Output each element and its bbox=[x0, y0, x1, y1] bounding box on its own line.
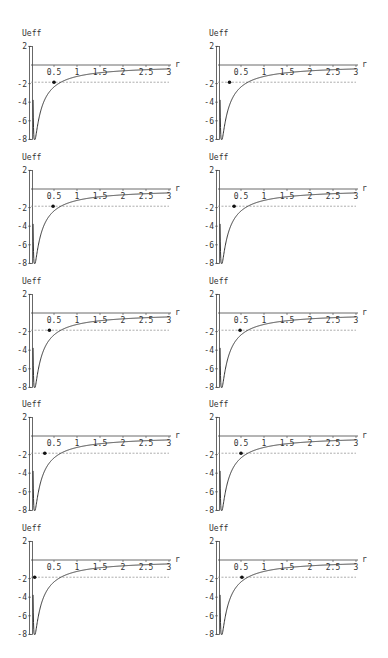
y-axis bbox=[30, 417, 33, 510]
x-axis-label: r bbox=[175, 555, 180, 564]
y-axis bbox=[30, 46, 33, 139]
y-tick-label: -2 bbox=[17, 80, 27, 89]
y-axis-label: Ueff bbox=[209, 400, 228, 409]
y-tick-label: -2 bbox=[204, 80, 214, 89]
y-tick-label: -8 bbox=[204, 383, 214, 392]
y-axis bbox=[30, 541, 33, 634]
x-tick-label: 0.5 bbox=[234, 68, 249, 77]
x-tick-label: 0.5 bbox=[234, 192, 249, 201]
x-tick-label: 2 bbox=[121, 439, 126, 448]
x-axis-label: r bbox=[175, 431, 180, 440]
effective-potential-curve bbox=[33, 69, 169, 139]
y-tick-label: -6 bbox=[17, 117, 27, 126]
effective-potential-curve bbox=[220, 317, 356, 387]
x-axis-label: r bbox=[175, 308, 180, 317]
y-tick-label: 2 bbox=[22, 42, 27, 51]
plot-panel-row3-left: Ueff2-2-4-6-8r0.511.522.53 bbox=[17, 277, 180, 392]
effective-potential-curve bbox=[220, 193, 356, 263]
y-tick-label: -2 bbox=[204, 328, 214, 337]
x-tick-label: 2 bbox=[121, 192, 126, 201]
y-axis-label: Ueff bbox=[209, 153, 228, 162]
y-tick-label: -6 bbox=[204, 117, 214, 126]
effective-potential-curve bbox=[33, 440, 169, 510]
y-tick-label: -6 bbox=[204, 612, 214, 621]
y-axis-label: Ueff bbox=[22, 29, 41, 38]
y-axis-label: Ueff bbox=[209, 524, 228, 533]
y-tick-label: -8 bbox=[17, 630, 27, 639]
y-axis bbox=[217, 46, 220, 139]
y-axis bbox=[217, 294, 220, 387]
plot-panel-row2-right: Ueff2-2-4-6-8r0.511.522.53 bbox=[204, 153, 367, 268]
x-tick-label: 0.5 bbox=[234, 439, 249, 448]
x-tick-label: 2 bbox=[308, 192, 313, 201]
y-axis-label: Ueff bbox=[22, 153, 41, 162]
x-axis-label: r bbox=[362, 431, 367, 440]
x-tick-label: 2 bbox=[308, 439, 313, 448]
y-tick-label: -2 bbox=[17, 328, 27, 337]
y-tick-label: -6 bbox=[204, 241, 214, 250]
y-tick-label: -6 bbox=[17, 612, 27, 621]
y-axis-label: Ueff bbox=[209, 29, 228, 38]
y-tick-label: -4 bbox=[204, 469, 214, 478]
y-axis bbox=[217, 170, 220, 263]
plot-panel-row2-left: Ueff2-2-4-6-8r0.511.522.53 bbox=[17, 153, 180, 268]
x-tick-label: 0.5 bbox=[47, 316, 62, 325]
y-tick-label: -4 bbox=[204, 98, 214, 107]
x-axis-label: r bbox=[175, 184, 180, 193]
particle-position-dot bbox=[52, 80, 56, 84]
y-axis-label: Ueff bbox=[209, 277, 228, 286]
effective-potential-curve bbox=[33, 193, 169, 263]
potential-plots-canvas: Ueff2-2-4-6-8r0.511.522.53Ueff2-2-4-6-8r… bbox=[0, 0, 388, 658]
particle-position-dot bbox=[228, 80, 232, 84]
y-tick-label: -2 bbox=[204, 451, 214, 460]
x-tick-label: 2 bbox=[308, 316, 313, 325]
particle-position-dot bbox=[43, 451, 47, 455]
plot-panel-row4-left: Ueff2-2-4-6-8r0.511.522.53 bbox=[17, 400, 180, 515]
y-axis-label: Ueff bbox=[22, 524, 41, 533]
particle-position-dot bbox=[33, 575, 37, 579]
y-tick-label: -4 bbox=[204, 593, 214, 602]
y-tick-label: 2 bbox=[22, 537, 27, 546]
y-axis bbox=[217, 417, 220, 510]
x-tick-label: 0.5 bbox=[234, 316, 249, 325]
plot-grid: Ueff2-2-4-6-8r0.511.522.53Ueff2-2-4-6-8r… bbox=[0, 0, 388, 658]
x-tick-label: 0.5 bbox=[47, 68, 62, 77]
y-tick-label: -4 bbox=[204, 346, 214, 355]
plot-panel-row5-right: Ueff2-2-4-6-8r0.511.522.53 bbox=[204, 524, 367, 639]
x-axis-label: r bbox=[362, 555, 367, 564]
y-tick-label: -8 bbox=[17, 135, 27, 144]
y-tick-label: -2 bbox=[17, 575, 27, 584]
x-tick-label: 0.5 bbox=[234, 563, 249, 572]
y-tick-label: -8 bbox=[17, 506, 27, 515]
y-tick-label: -8 bbox=[204, 259, 214, 268]
x-tick-label: 2 bbox=[121, 316, 126, 325]
y-tick-label: 2 bbox=[209, 290, 214, 299]
y-tick-label: -8 bbox=[204, 506, 214, 515]
x-axis-label: r bbox=[362, 184, 367, 193]
particle-position-dot bbox=[51, 204, 55, 208]
y-axis bbox=[30, 294, 33, 387]
plot-panel-row1-left: Ueff2-2-4-6-8r0.511.522.53 bbox=[17, 29, 180, 144]
y-tick-label: 2 bbox=[209, 42, 214, 51]
particle-position-dot bbox=[232, 204, 236, 208]
y-tick-label: -4 bbox=[17, 593, 27, 602]
y-tick-label: 2 bbox=[22, 290, 27, 299]
y-axis bbox=[217, 541, 220, 634]
y-tick-label: -8 bbox=[204, 135, 214, 144]
y-tick-label: -6 bbox=[17, 241, 27, 250]
y-tick-label: -6 bbox=[204, 488, 214, 497]
x-tick-label: 0.5 bbox=[47, 563, 62, 572]
particle-position-dot bbox=[239, 451, 243, 455]
y-axis-label: Ueff bbox=[22, 277, 41, 286]
y-tick-label: -4 bbox=[17, 98, 27, 107]
y-tick-label: 2 bbox=[209, 413, 214, 422]
particle-position-dot bbox=[48, 328, 52, 332]
y-tick-label: -6 bbox=[17, 488, 27, 497]
y-axis bbox=[30, 170, 33, 263]
y-axis-label: Ueff bbox=[22, 400, 41, 409]
y-tick-label: -4 bbox=[17, 346, 27, 355]
x-tick-label: 0.5 bbox=[47, 439, 62, 448]
effective-potential-curve bbox=[220, 564, 356, 634]
y-tick-label: 2 bbox=[22, 413, 27, 422]
y-tick-label: -2 bbox=[204, 575, 214, 584]
